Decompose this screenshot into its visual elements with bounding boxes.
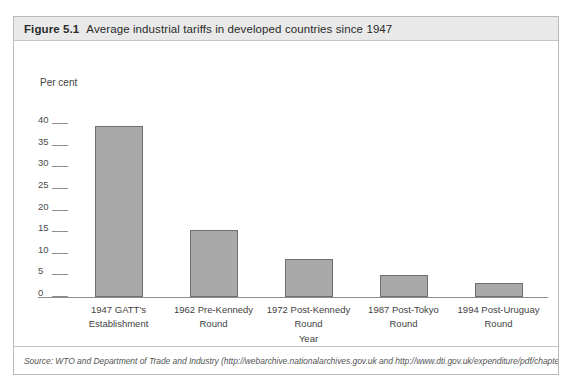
category-label-line: 1972 Post-Kennedy (267, 304, 350, 315)
figure-title: Average industrial tariffs in developed … (86, 23, 392, 35)
figure-footer: Source: WTO and Department of Trade and … (14, 346, 558, 374)
bar (285, 259, 333, 297)
chart-plot-area: Per cent 0510152025303540 1947 GATT'sEst… (14, 41, 559, 346)
bar (190, 230, 238, 297)
bar (475, 283, 523, 297)
category-label-line: 1987 Post-Tokyo (368, 304, 439, 315)
figure-frame: Figure 5.1 Average industrial tariffs in… (13, 16, 559, 375)
figure-header: Figure 5.1 Average industrial tariffs in… (14, 17, 558, 41)
x-axis-line (38, 297, 548, 298)
category-label-line: 1994 Post-Uruguay (458, 304, 540, 315)
category-label-line: 1947 GATT's (91, 304, 146, 315)
bar (95, 126, 143, 297)
category-label-line: Round (443, 317, 554, 331)
x-axis-title: Year (279, 333, 339, 344)
bar (380, 275, 428, 297)
bar-series (14, 41, 559, 297)
category-label-line: 1962 Pre-Kennedy (174, 304, 253, 315)
source-note: Source: WTO and Department of Trade and … (24, 356, 559, 366)
figure-number: Figure 5.1 (24, 23, 79, 35)
x-axis-category-label: 1994 Post-UruguayRound (443, 303, 554, 331)
